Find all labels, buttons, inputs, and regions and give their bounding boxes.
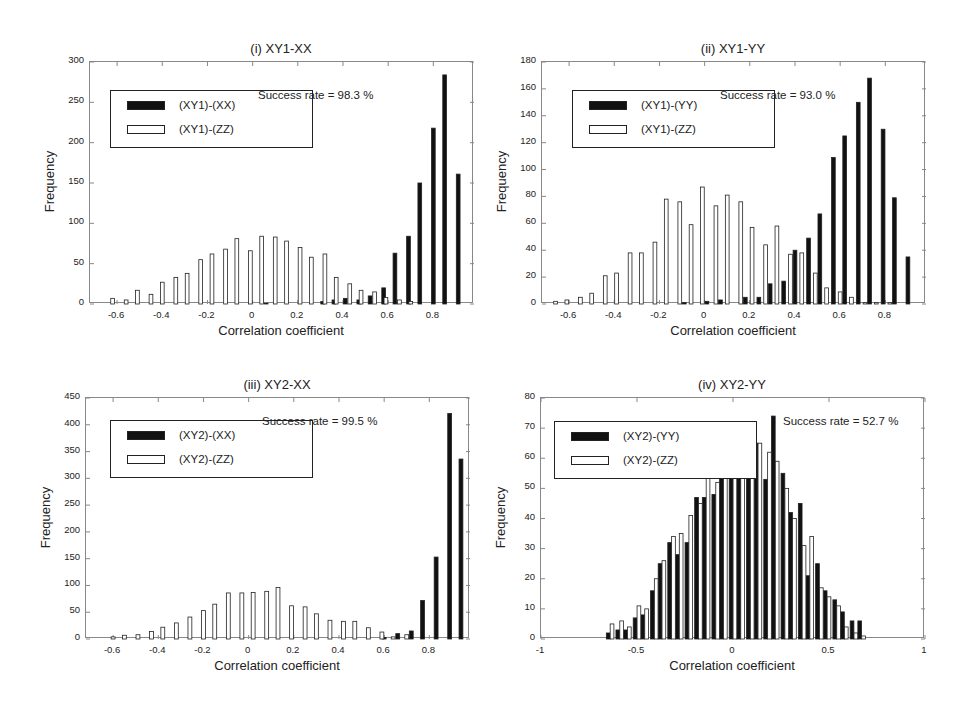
histogram-bar [265,591,269,639]
histogram-bar [768,452,772,639]
y-tick-label: 20 [506,269,536,280]
x-tick-label: 0.8 [869,309,899,320]
histogram-bar [353,621,357,639]
x-tick-label: 0 [717,644,747,655]
histogram-bar [789,254,793,304]
x-tick-label: 0.8 [413,644,443,655]
x-tick-label: 0 [689,309,719,320]
histogram-bar [396,634,400,639]
y-tick-label: 120 [506,135,536,146]
histogram-bar [768,284,772,304]
y-tick-label: 250 [50,497,80,508]
y-tick-label: 80 [505,390,535,401]
y-tick-label: 180 [506,54,536,65]
x-tick-label: -0.4 [598,309,628,320]
histogram-bar [431,128,435,304]
histogram-bar [689,515,693,639]
x-tick-label: 0.4 [779,309,809,320]
panel-title: (iv) XY2-YY [632,377,832,392]
histogram-bar [695,497,699,639]
histogram-bar [699,503,703,639]
y-tick-label: 10 [505,601,535,612]
histogram-bar [888,303,892,304]
histogram-bar [672,537,676,639]
histogram-bar [610,624,614,639]
histogram-bar [628,253,632,304]
histogram-bar [689,225,693,304]
histogram-bar [781,473,785,639]
histogram-bar [641,615,645,639]
x-tick-label: -0.6 [97,644,127,655]
histogram-bar [651,591,655,639]
y-tick-label: 250 [54,94,84,105]
histogram-bar [813,273,817,304]
histogram-bar [771,416,775,639]
y-tick-label: 0 [50,631,80,642]
histogram-bar [785,488,789,639]
histogram-bar [298,248,302,304]
histogram-bar [111,637,115,639]
histogram-bar [678,202,682,304]
x-tick-label: 0.2 [278,644,308,655]
histogram-bar [384,298,388,304]
histogram-bar [290,606,294,639]
histogram-bar [844,627,848,639]
histogram-bar [443,75,447,304]
histogram-bar [775,226,779,304]
x-tick-label: -0.4 [142,644,172,655]
histogram-bar [837,606,841,639]
histogram-bar [603,276,607,304]
histogram-bar [858,621,862,639]
y-tick-label: 160 [506,81,536,92]
x-tick-label: 0.8 [417,309,447,320]
histogram-bar [188,617,192,639]
histogram-bar [833,600,837,639]
legend-label: (XY2)-(ZZ) [179,453,234,465]
y-tick-label: 100 [54,215,84,226]
histogram-bar [590,293,594,304]
y-tick-label: 450 [50,390,80,401]
x-tick-label: 0.6 [372,309,402,320]
histogram-bar [841,612,845,639]
histogram-bar [434,557,438,639]
y-tick-label: 300 [50,470,80,481]
y-tick-label: 200 [54,135,84,146]
histogram-bar [716,482,720,639]
histogram-bar [565,300,569,304]
histogram-bar [185,273,189,304]
histogram-bar [819,588,823,639]
histogram-bar [554,301,558,304]
legend-swatch-black [589,101,627,110]
histogram-bar [668,543,672,639]
legend-label: (XY1)-(ZZ) [179,123,234,135]
y-tick-label: 40 [505,511,535,522]
histogram-bar [823,591,827,639]
histogram-bar [285,241,289,304]
histogram-bar [226,593,230,639]
y-tick-label: 200 [50,524,80,535]
histogram-bar [658,564,662,639]
legend-entry: (XY1)-(XX) [127,99,235,111]
histogram-bar [645,609,649,639]
histogram-bar [124,300,128,304]
histogram-bar [881,129,885,304]
y-tick-label: 0 [505,631,535,642]
y-tick-label: 140 [506,108,536,119]
histogram-bar [800,253,804,304]
y-axis-label: Frequency [42,142,57,222]
histogram-bar [775,461,779,639]
x-axis-label: Correlation coefficient [632,658,832,673]
success-rate-annotation: Success rate = 98.3 % [258,89,373,101]
histogram-bar [359,290,363,304]
panel-title: (i) XY1-XX [181,41,381,56]
x-axis-label: Correlation coefficient [177,658,377,673]
histogram-bar [235,239,239,304]
histogram-bar [863,303,867,304]
y-axis-label: Frequency [494,142,509,222]
histogram-bar [342,621,346,639]
histogram-bar [273,237,277,304]
histogram-bar [160,282,164,304]
histogram-bar [264,303,268,304]
x-tick-label: 0 [233,644,263,655]
legend-swatch-black [127,101,165,110]
